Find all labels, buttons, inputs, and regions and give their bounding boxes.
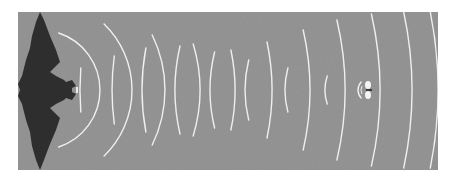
- echolocation-figure: [0, 0, 452, 183]
